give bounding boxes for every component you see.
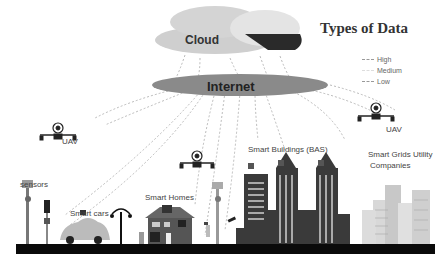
smart-grid-buildings-icon: [362, 185, 430, 244]
legend-item-high: High: [362, 56, 391, 63]
smart-cars-label: Smart cars: [70, 209, 109, 218]
smart-grids-label-line2: Companies: [370, 161, 410, 170]
uav-right-icon: [358, 103, 394, 121]
smart-grids-label-line1: Smart Grids Utility: [368, 150, 432, 159]
road: [16, 244, 435, 254]
smart-buildings-label: Smart Buildings (BAS): [248, 145, 328, 154]
legend-item-low: Low: [362, 78, 390, 85]
smart-homes-label: Smart Homes: [145, 193, 194, 202]
utility-pole-icon: [212, 182, 223, 245]
internet-label: Internet: [207, 79, 255, 94]
diagram-canvas: [0, 0, 447, 267]
street-pole-icon: [22, 180, 33, 245]
legend-line-icon: [362, 70, 374, 71]
diagram-title: Types of Data: [320, 20, 408, 37]
lamp-post-icon: [110, 209, 132, 245]
sensors-label: sensors: [20, 180, 48, 189]
legend-line-icon: [362, 81, 374, 82]
cloud-shape: [155, 6, 302, 54]
legend-item-medium: Medium: [362, 67, 402, 74]
uav-right-label: UAV: [386, 125, 402, 134]
uav-middle-icon: [180, 151, 214, 168]
camera-icon: [228, 216, 237, 222]
cloud-label: Cloud: [185, 33, 219, 47]
smart-home-icon: [139, 205, 195, 244]
traffic-light-icon: [44, 200, 50, 245]
legend-line-icon: [362, 59, 374, 60]
uav-left-label: UAV: [62, 137, 78, 146]
